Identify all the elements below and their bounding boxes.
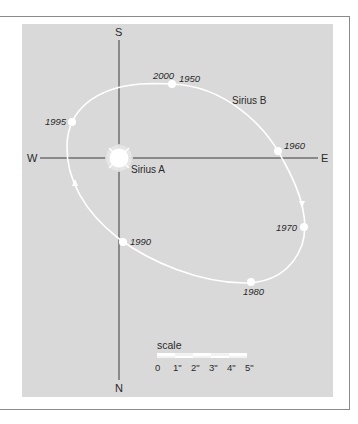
orbit-dot-1980 — [247, 278, 255, 286]
orbit-dot-1970 — [300, 223, 308, 231]
arrow-down-icon — [299, 201, 305, 208]
scale-tick-1: 1" — [173, 363, 182, 373]
year-label-1960: 1960 — [284, 141, 305, 151]
compass-south-label: S — [115, 27, 122, 38]
scale-ticks: 0 1" 2" 3" 4" 5" — [0, 363, 358, 375]
orbit-dot-1995 — [68, 118, 76, 126]
scale-tick-0: 0 — [155, 363, 160, 373]
sirius-a-rays-icon — [105, 144, 133, 172]
year-label-1980: 1980 — [243, 287, 264, 297]
orbit-diagram — [0, 0, 358, 424]
year-label-1995: 1995 — [45, 117, 66, 127]
orbit-dot-1990 — [119, 238, 127, 246]
compass-west-label: W — [27, 153, 37, 164]
scale-bar — [157, 353, 247, 358]
scale-title: scale — [157, 340, 182, 351]
year-label-1950: 1950 — [179, 74, 200, 84]
orbit-dot-1960 — [274, 147, 282, 155]
compass-north-label: N — [115, 383, 123, 394]
sirius-b-label: Sirius B — [232, 96, 266, 106]
year-label-2000: 2000 — [153, 71, 174, 81]
sirius-a-label: Sirius A — [131, 165, 165, 175]
year-label-1970: 1970 — [276, 223, 297, 233]
orbit-dot-1950-2000 — [168, 80, 176, 88]
compass-east-label: E — [321, 153, 328, 164]
year-label-1990: 1990 — [130, 237, 151, 247]
scale-tick-3: 3" — [209, 363, 218, 373]
scale-tick-2: 2" — [191, 363, 200, 373]
scale-tick-5: 5" — [245, 363, 254, 373]
scale-tick-4: 4" — [227, 363, 236, 373]
orbit-path — [67, 84, 305, 283]
